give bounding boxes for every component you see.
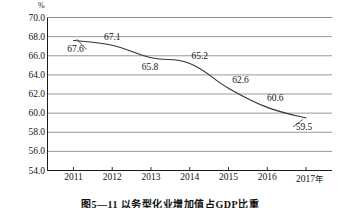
x-axis-tick-year: 2015 — [219, 172, 238, 182]
x-axis-tick-year: 2011 — [64, 172, 83, 182]
x-axis-tick-year: 2014 — [180, 172, 199, 182]
gridlines-group — [48, 18, 333, 171]
x-axis-ticks-group — [73, 167, 306, 171]
x-axis-tick-label: 2015 — [219, 172, 238, 182]
x-axis-year-suffix: 年 — [315, 174, 324, 184]
x-axis-tick-year: 2013 — [141, 172, 160, 182]
x-axis-tick-year: 2012 — [103, 172, 122, 182]
figure-container: % 70.068.066.064.062.060.058.056.054.0 2… — [0, 0, 340, 208]
data-point-label: 60.6 — [267, 93, 284, 103]
line-chart-plot — [0, 0, 340, 208]
x-axis-tick-label: 2017年 — [296, 172, 324, 184]
x-axis-tick-label: 2016 — [258, 172, 277, 182]
figure-caption: 图5—11 以务型化业增加值占GDP比重 — [0, 196, 340, 208]
x-axis-tick-year: 2016 — [258, 172, 277, 182]
data-point-label: 67.6 — [67, 44, 84, 54]
label-leader-lines — [76, 39, 303, 127]
x-axis-tick-label: 2013 — [141, 172, 160, 182]
data-point-label: 59.5 — [296, 122, 313, 132]
data-series-line — [73, 40, 306, 117]
x-axis-tick-year: 2017 — [296, 174, 315, 184]
x-axis-tick-label: 2012 — [103, 172, 122, 182]
data-point-label: 67.1 — [104, 32, 121, 42]
x-axis-tick-label: 2011 — [64, 172, 83, 182]
data-point-label: 62.6 — [232, 75, 249, 85]
data-point-label: 65.2 — [191, 51, 208, 61]
x-axis-tick-label: 2014 — [180, 172, 199, 182]
data-point-label: 65.8 — [142, 62, 159, 72]
